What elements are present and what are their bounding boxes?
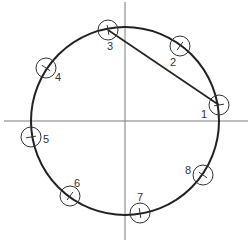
point-1: 1 <box>201 95 229 120</box>
point-label: 7 <box>137 191 143 203</box>
circle-diagram: 12345678 <box>0 0 248 240</box>
point-label: 5 <box>43 133 49 145</box>
point-label: 8 <box>185 164 191 176</box>
point-label: 4 <box>55 71 61 83</box>
point-label: 1 <box>201 108 207 120</box>
point-7: 7 <box>130 191 150 223</box>
point-3: 3 <box>98 20 118 52</box>
point-label: 6 <box>74 177 80 189</box>
point-5: 5 <box>21 127 49 147</box>
point-label: 2 <box>170 56 176 68</box>
point-8: 8 <box>185 164 213 185</box>
point-tick-mark <box>26 136 36 138</box>
point-label: 3 <box>107 40 113 52</box>
